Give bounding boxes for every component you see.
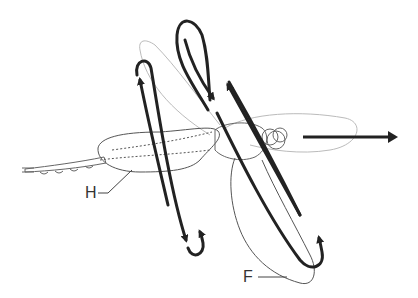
diagram-figure (0, 0, 418, 298)
hindwing-label: H (85, 185, 97, 201)
abdomen (22, 157, 106, 174)
dragonfly-wingbeat-diagram: H F (0, 0, 418, 298)
forewing-label: F (243, 269, 253, 285)
upper-wing-outlines (140, 41, 357, 152)
label-leader-lines (98, 170, 287, 277)
wingbeat-stroke-paths (137, 21, 323, 267)
